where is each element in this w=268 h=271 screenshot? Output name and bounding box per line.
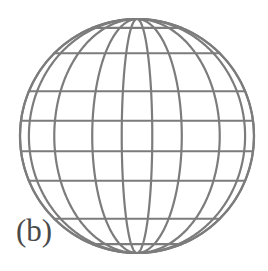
- graticule-group: [20, 19, 254, 253]
- panel-label: (b): [16, 213, 52, 249]
- figure-panel: (b): [0, 0, 268, 271]
